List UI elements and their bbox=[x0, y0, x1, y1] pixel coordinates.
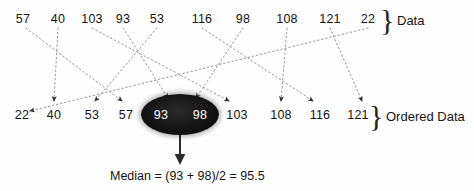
connector-arrow bbox=[92, 28, 229, 101]
label-data: Data bbox=[397, 14, 424, 28]
ordered-data-value: 22 bbox=[15, 108, 29, 122]
median-diagram: 574010393531169810812122 224053579398103… bbox=[0, 0, 474, 191]
raw-data-value: 121 bbox=[319, 12, 340, 26]
raw-data-value: 53 bbox=[150, 12, 164, 26]
ordered-data-value-highlighted: 98 bbox=[193, 108, 207, 122]
ordered-data-value: 121 bbox=[347, 108, 368, 122]
connector-lines-layer bbox=[0, 0, 474, 191]
connector-arrow bbox=[330, 28, 362, 101]
ordered-data-value: 40 bbox=[47, 108, 61, 122]
label-ordered-data: Ordered Data bbox=[386, 110, 465, 124]
median-pair-highlight-ellipse bbox=[141, 94, 219, 135]
connector-arrow bbox=[95, 28, 157, 101]
raw-data-value: 22 bbox=[361, 12, 375, 26]
raw-data-value: 116 bbox=[192, 12, 213, 26]
ordered-data-value: 103 bbox=[226, 108, 247, 122]
raw-data-value: 108 bbox=[276, 12, 297, 26]
connector-arrow bbox=[123, 28, 168, 98]
ordered-data-value: 53 bbox=[85, 108, 99, 122]
connector-arrow bbox=[26, 28, 122, 101]
brace-ordered-data-icon: } bbox=[369, 101, 383, 131]
connector-arrow bbox=[281, 28, 287, 101]
ordered-data-value-highlighted: 93 bbox=[154, 108, 168, 122]
median-caption: Median = (93 + 98)/2 = 95.5 bbox=[110, 169, 265, 183]
ordered-data-value: 108 bbox=[270, 108, 291, 122]
raw-data-value: 57 bbox=[16, 12, 30, 26]
ordered-data-value: 116 bbox=[310, 108, 331, 122]
raw-data-value: 93 bbox=[116, 12, 130, 26]
raw-data-value: 98 bbox=[236, 12, 250, 26]
raw-data-value: 40 bbox=[51, 12, 65, 26]
ordered-data-value: 57 bbox=[119, 108, 133, 122]
brace-data-icon: } bbox=[380, 5, 394, 35]
raw-data-value: 103 bbox=[81, 12, 102, 26]
connector-arrow bbox=[54, 28, 58, 101]
connector-arrow bbox=[202, 28, 313, 101]
connector-arrow bbox=[196, 28, 243, 98]
